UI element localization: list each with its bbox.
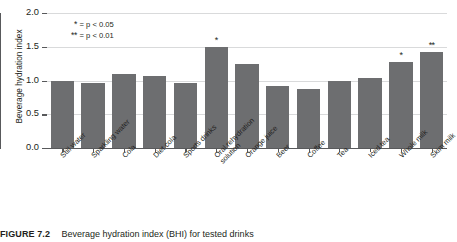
bar-slot [139, 13, 170, 148]
y-tick-label-text: 2.0 [5, 7, 39, 17]
figure-caption-text: Beverage hydration index (BHI) for teste… [62, 229, 254, 239]
y-tick-label-text: 1.0 [5, 75, 39, 85]
y-tick-label-text: 0.0 [5, 142, 39, 152]
bar-slot [293, 13, 324, 148]
bar-slot [47, 13, 78, 148]
bar[interactable] [328, 81, 351, 149]
significance-star-double-icon: ** [416, 41, 447, 50]
bar-slot: * [385, 13, 416, 148]
figure-caption: FIGURE 7.2 Beverage hydration index (BHI… [0, 229, 254, 239]
bar[interactable] [358, 78, 381, 148]
bar[interactable] [297, 89, 320, 148]
significance-star-single-icon: * [201, 36, 232, 45]
bar[interactable] [51, 81, 74, 149]
bar-slot [355, 13, 386, 148]
y-axis-line [0, 13, 1, 149]
significance-star-single-icon: * [385, 51, 416, 60]
y-tick-label-text: 0.5 [5, 108, 39, 118]
bar[interactable] [143, 76, 166, 148]
y-tick-label-text: 1.5 [5, 41, 39, 51]
bar-slot [78, 13, 109, 148]
figure-caption-label: FIGURE 7.2 [0, 229, 50, 239]
bar-slot [324, 13, 355, 148]
bar-slot: ** [416, 13, 447, 148]
bar-slot [170, 13, 201, 148]
bar[interactable] [389, 62, 412, 148]
